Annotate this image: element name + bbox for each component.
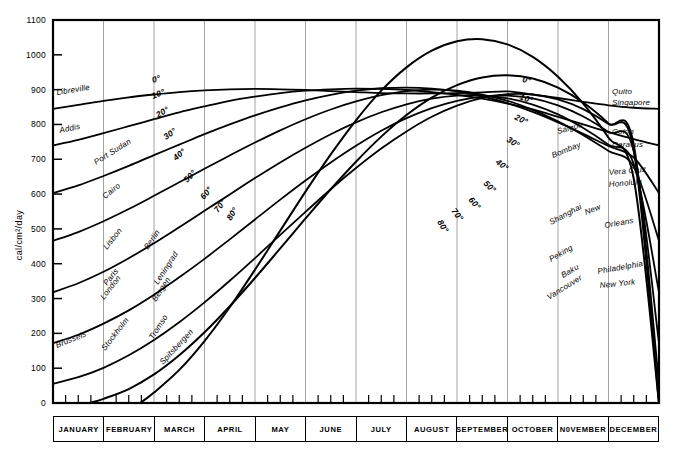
chart-figure: 110010009008007006005004003002001000 Lib… [0, 0, 675, 449]
y-tick-label: 400 [31, 259, 46, 269]
latitude-label-right-20: 20° [512, 111, 530, 126]
latitude-label-left-80: 80° [224, 205, 240, 222]
city-label-right-new: New [583, 202, 603, 217]
month-cell-august: AUGUST [407, 417, 457, 441]
latitude-label-right-80: 80° [435, 218, 451, 235]
latitude-label-right-0: 0° [522, 74, 533, 86]
latitude-label-right-60: 60° [466, 195, 483, 212]
y-tick-label: 600 [31, 189, 46, 199]
latitude-label-left-70: 70° [212, 197, 228, 214]
y-tick-label: 1100 [27, 15, 46, 25]
latitude-label-right-40: 40° [493, 156, 511, 173]
y-tick-label: 1000 [26, 50, 46, 60]
latitude-label-left-0: 0° [151, 73, 163, 85]
y-tick-label: 300 [31, 294, 46, 304]
month-axis: JANUARYFEBRUARYMARCHAPRILMAYJUNEJULYAUGU… [53, 416, 659, 442]
month-cell-december: DECEMBER [609, 417, 658, 441]
city-label-right-philadelphia: Philadelphia [597, 259, 644, 276]
city-label-right-caracus: Caracus [612, 140, 643, 149]
latitude-label-left-30: 30° [161, 126, 178, 142]
month-cell-july: JULY [357, 417, 407, 441]
city-label-right-bombay: Bombay [550, 140, 582, 160]
y-axis-title: cal/cm²/day [14, 210, 24, 261]
month-cell-february: FEBRUARY [104, 417, 154, 441]
city-label-left-brussels: Brussels [54, 329, 87, 349]
city-label-right-shanghai: Shanghai [548, 202, 584, 227]
y-tick-label: 200 [31, 328, 46, 338]
y-tick-label: 0 [41, 398, 46, 408]
y-tick-label: 500 [31, 224, 46, 234]
y-tick-label: 100 [31, 363, 46, 373]
city-label-right-honolulu: Honolulu [608, 177, 642, 189]
city-label-right-peking: Peking [548, 243, 575, 264]
y-tick-label: 900 [31, 85, 46, 95]
latitude-label-left-60: 60° [198, 184, 215, 201]
month-cell-march: MARCH [155, 417, 205, 441]
latitude-label-right-50: 50° [482, 178, 499, 195]
city-label-right-vera-cruz: Vera Cruz [608, 165, 646, 177]
month-cell-june: JUNE [306, 417, 356, 441]
latitude-label-left-10: 10° [150, 86, 167, 100]
city-label-right-singapore: Singapore [612, 98, 651, 107]
city-label-left-stockholm: Stockholm [99, 316, 130, 352]
month-cell-april: APRIL [205, 417, 255, 441]
city-label-right-new-york: New York [599, 277, 636, 290]
y-tick-label: 800 [31, 119, 46, 129]
latitude-label-right-70: 70° [449, 206, 465, 223]
month-cell-n0vember: N0VEMBER [558, 417, 608, 441]
city-label-left-lisbon: Lisbon [101, 226, 124, 251]
city-label-left-port-sudan: Port Sudan [92, 137, 133, 167]
city-label-left-libreville: Libreville [56, 83, 91, 97]
city-label-right-colon: Colon [612, 127, 634, 136]
solar-radiation-chart: 110010009008007006005004003002001000 Lib… [0, 0, 675, 449]
y-axis-tick-labels: 110010009008007006005004003002001000 [26, 15, 46, 408]
month-cell-september: SEPTEMBER [457, 417, 507, 441]
y-tick-label: 700 [31, 154, 46, 164]
month-cell-may: MAY [256, 417, 306, 441]
month-cell-october: OCTOBER [508, 417, 558, 441]
latitude-label-left-50: 50° [181, 168, 198, 185]
city-label-right-quito: Quito [612, 87, 632, 96]
month-cell-january: JANUARY [54, 417, 104, 441]
latitude-label-left-40: 40° [170, 146, 188, 163]
